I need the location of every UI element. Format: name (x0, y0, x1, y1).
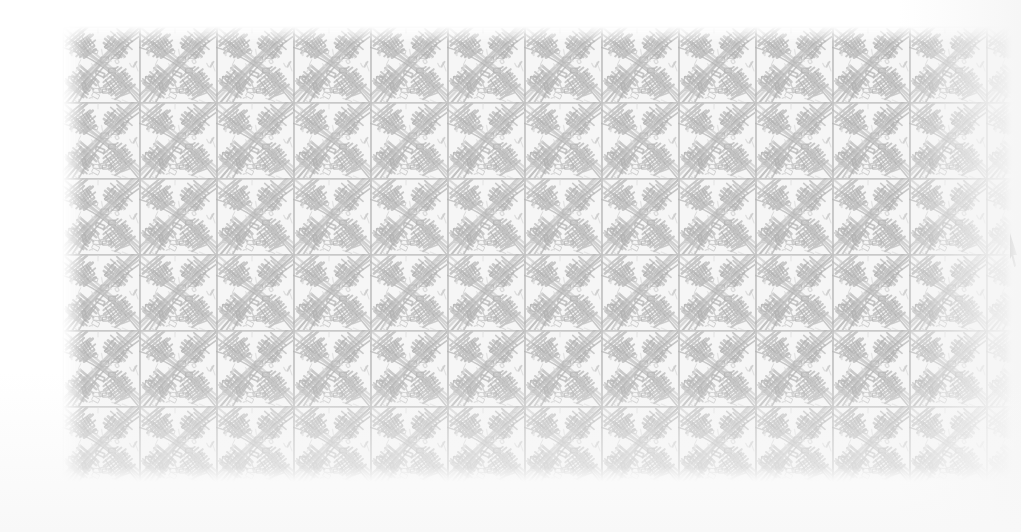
pattern-fill-rect (62, 26, 1021, 482)
pattern-svg (62, 26, 1021, 482)
pattern-tiles (62, 26, 1021, 482)
pattern-block (62, 26, 1021, 482)
screenshot-canvas: Hand-drawn crosshatch tile pattern A sca… (0, 0, 1021, 532)
pattern-blur-layer (62, 26, 1021, 482)
